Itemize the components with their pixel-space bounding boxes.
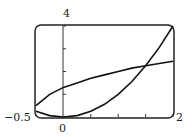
- x-min-label: −0.5: [4, 112, 31, 123]
- curve-2: [36, 61, 173, 105]
- x-max-label: 2: [176, 112, 183, 123]
- x-origin-label: 0: [59, 123, 66, 134]
- y-max-label: 4: [63, 8, 70, 19]
- curve-1: [36, 26, 173, 117]
- x-axis-ticks: [91, 114, 173, 117]
